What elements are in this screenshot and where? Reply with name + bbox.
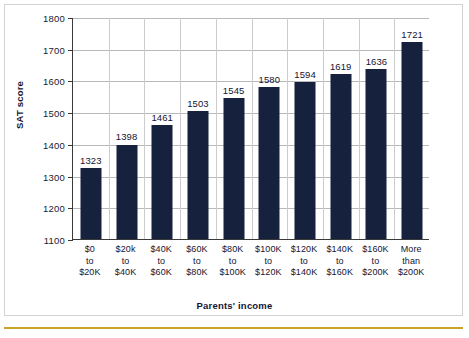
y-tick-label: 1500 bbox=[43, 108, 65, 119]
bar-slot: 1594 bbox=[287, 18, 323, 239]
y-tick-label: 1400 bbox=[43, 139, 65, 150]
bar-slot: 1398 bbox=[109, 18, 145, 239]
y-tick-label: 1700 bbox=[43, 44, 65, 55]
bar bbox=[259, 87, 280, 239]
bar bbox=[80, 168, 101, 239]
bar-slot: 1619 bbox=[323, 18, 359, 239]
x-category-label: $20k to $40K bbox=[108, 244, 144, 279]
y-axis-title: SAT score bbox=[14, 81, 25, 129]
bars-layer: 1323139814611503154515801594161916361721 bbox=[73, 18, 429, 239]
bar bbox=[366, 69, 387, 239]
bar-slot: 1323 bbox=[73, 18, 109, 239]
y-tick-label: 1300 bbox=[43, 171, 65, 182]
x-category-label: $160K to $200K bbox=[358, 244, 394, 279]
bar bbox=[152, 125, 173, 239]
bar bbox=[330, 74, 351, 239]
footer-rule bbox=[4, 327, 463, 329]
x-category-label: $60K to $80K bbox=[179, 244, 215, 279]
x-category-label: $80K to $100K bbox=[215, 244, 251, 279]
bar-slot: 1636 bbox=[359, 18, 395, 239]
bar-value-label: 1545 bbox=[223, 85, 245, 96]
x-category-label: $100K to $120K bbox=[251, 244, 287, 279]
bar-slot: 1721 bbox=[394, 18, 430, 239]
x-category-label: $140K to $160K bbox=[322, 244, 358, 279]
plot-area: 11001200130014001500160017001800 1323139… bbox=[72, 18, 429, 240]
bar bbox=[223, 98, 244, 239]
bar-value-label: 1503 bbox=[187, 98, 209, 109]
bar bbox=[295, 82, 316, 239]
bar-value-label: 1323 bbox=[80, 155, 102, 166]
bar-slot: 1503 bbox=[180, 18, 216, 239]
y-tick-label: 1800 bbox=[43, 13, 65, 24]
x-category-label: More than $200K bbox=[393, 244, 429, 279]
bar bbox=[187, 111, 208, 239]
bar-slot: 1580 bbox=[252, 18, 288, 239]
y-tick-label: 1600 bbox=[43, 76, 65, 87]
x-axis-title: Parents' income bbox=[0, 300, 469, 311]
sat-score-bar-chart: SAT score 110012001300140015001600170018… bbox=[0, 0, 469, 338]
y-tick-mark bbox=[68, 240, 73, 241]
bar-value-label: 1721 bbox=[401, 29, 423, 40]
bar-value-label: 1636 bbox=[366, 56, 388, 67]
bar bbox=[402, 42, 423, 239]
x-category-label: $40K to $60K bbox=[143, 244, 179, 279]
bar-value-label: 1461 bbox=[151, 112, 173, 123]
bar-value-label: 1398 bbox=[116, 131, 138, 142]
x-category-label: $0 to $20K bbox=[72, 244, 108, 279]
bar-slot: 1545 bbox=[216, 18, 252, 239]
bar bbox=[116, 145, 137, 240]
bar-value-label: 1594 bbox=[294, 69, 316, 80]
bar-value-label: 1619 bbox=[330, 61, 352, 72]
y-tick-label: 1200 bbox=[43, 203, 65, 214]
y-tick-label: 1100 bbox=[44, 235, 65, 246]
bar-slot: 1461 bbox=[144, 18, 180, 239]
x-category-label: $120K to $140K bbox=[286, 244, 322, 279]
bar-value-label: 1580 bbox=[259, 74, 281, 85]
